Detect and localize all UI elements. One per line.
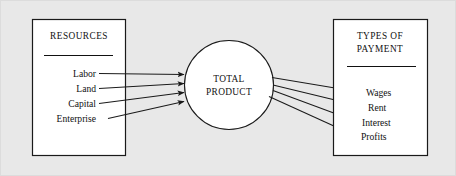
payment-item-rent: Rent: [368, 102, 386, 113]
payment-item-wages: Wages: [366, 87, 392, 98]
payment-heading-line1: TYPES OF: [357, 31, 403, 41]
resource-item-enterprise: Enterprise: [57, 113, 96, 124]
resource-item-labor: Labor: [73, 68, 97, 79]
total-product-line1: TOTAL: [213, 74, 244, 84]
payment-item-profits: Profits: [361, 131, 387, 142]
total-product-node: [185, 41, 274, 130]
payment-heading-line2: PAYMENT: [357, 44, 403, 54]
resources-heading: RESOURCES: [50, 31, 108, 41]
total-product-line2: PRODUCT: [206, 87, 252, 97]
resource-item-land: Land: [76, 83, 96, 94]
economics-flow-diagram: RESOURCES Labor Land Capital Enterprise …: [0, 0, 456, 176]
payment-item-interest: Interest: [362, 117, 391, 128]
diagram-stage: RESOURCES Labor Land Capital Enterprise …: [0, 0, 456, 176]
resource-item-capital: Capital: [68, 98, 96, 109]
